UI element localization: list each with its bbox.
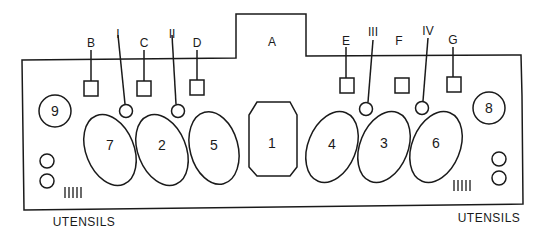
oval-3: 3 bbox=[380, 135, 388, 151]
oval-7: 7 bbox=[106, 137, 114, 153]
oval-4: 4 bbox=[328, 136, 336, 152]
label-iv: IV bbox=[422, 24, 433, 38]
utensils-left-label: UTENSILS bbox=[53, 215, 116, 229]
square-b bbox=[84, 81, 98, 96]
square-g bbox=[447, 77, 461, 92]
square-c bbox=[137, 81, 151, 96]
label-i: I bbox=[116, 27, 119, 41]
center-1: 1 bbox=[268, 135, 276, 151]
label-ii: II bbox=[169, 27, 176, 41]
utensils-right-label: UTENSILS bbox=[458, 211, 521, 225]
label-d: D bbox=[193, 36, 202, 50]
square-e bbox=[340, 78, 354, 93]
oval-6: 6 bbox=[432, 135, 440, 151]
label-iii: III bbox=[368, 25, 378, 39]
label-9: 9 bbox=[51, 103, 59, 119]
label-g: G bbox=[448, 33, 457, 47]
square-f bbox=[395, 78, 409, 93]
label-e: E bbox=[342, 34, 350, 48]
label-8: 8 bbox=[485, 100, 493, 116]
square-d bbox=[190, 80, 204, 95]
label-b: B bbox=[87, 36, 95, 50]
label-a: A bbox=[268, 35, 276, 49]
label-f: F bbox=[395, 34, 402, 48]
oval-5: 5 bbox=[210, 137, 218, 153]
oval-2: 2 bbox=[158, 137, 166, 153]
label-c: C bbox=[140, 36, 149, 50]
